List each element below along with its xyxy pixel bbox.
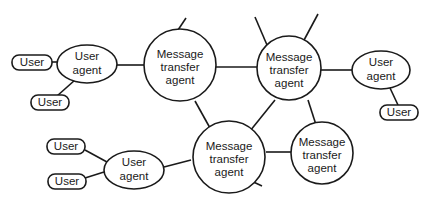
mta-node-3: Message transfer agent	[193, 121, 265, 193]
mta-node-4: Message transfer agent	[291, 122, 353, 184]
ua-label-line2: agent	[73, 64, 103, 76]
user-label: User	[387, 106, 411, 118]
mta-label-line2: transfer	[161, 61, 200, 73]
user-agent-node-1: User agent	[57, 45, 117, 83]
user-label: User	[38, 96, 62, 108]
mta-label-line3: agent	[215, 166, 245, 178]
ua-label-line1: User	[369, 56, 393, 68]
edge-mta3-ua3	[164, 160, 191, 167]
user-agent-node-3: User agent	[104, 151, 164, 189]
edge-user2-ua1	[57, 80, 75, 96]
user-label: User	[20, 56, 44, 68]
mta-label-line1: Message	[266, 51, 313, 63]
user-node-1: User	[12, 55, 52, 70]
user-node-2: User	[31, 95, 69, 110]
user-agent-node-2: User agent	[352, 51, 410, 89]
mta-label-line3: agent	[275, 77, 305, 89]
ua-label-line1: User	[75, 50, 99, 62]
user-label: User	[55, 175, 79, 187]
edge-mta2-up-left	[255, 17, 267, 45]
mta-label-line1: Message	[206, 140, 253, 152]
mail-network-diagram: Message transfer agent Message transfer …	[0, 0, 428, 199]
edge-mta1-mta3	[195, 101, 210, 128]
ua-label-line2: agent	[120, 170, 150, 182]
user-node-5: User	[48, 174, 86, 189]
edge-ua3-user4	[85, 150, 107, 162]
edge-mta1-up	[178, 18, 186, 30]
user-label: User	[54, 140, 78, 152]
mta-label-line2: transfer	[210, 153, 249, 165]
mta-label-line1: Message	[157, 48, 204, 60]
edge-ua2-user3	[390, 88, 398, 105]
edge-ua3-user5	[85, 172, 104, 178]
mta-node-1: Message transfer agent	[144, 29, 216, 101]
mta-label-line2: transfer	[303, 149, 342, 161]
ua-label-line1: User	[122, 156, 146, 168]
mta-node-2: Message transfer agent	[257, 36, 321, 100]
mta-label-line3: agent	[308, 162, 338, 174]
mta-label-line2: transfer	[270, 64, 309, 76]
edge-mta2-up-right	[303, 14, 318, 42]
user-node-4: User	[47, 139, 85, 154]
user-node-3: User	[380, 105, 418, 120]
ua-label-line2: agent	[367, 70, 397, 82]
mta-label-line1: Message	[299, 136, 346, 148]
mta-label-line3: agent	[166, 74, 196, 86]
